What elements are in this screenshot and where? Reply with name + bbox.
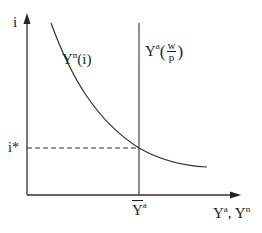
- equilibrium-rate-label: i*: [8, 141, 19, 155]
- x-axis-label: Ya, Yn: [213, 206, 250, 221]
- x-axis-label-ya: Y: [213, 205, 224, 221]
- demand-curve-label: Yn(i): [62, 52, 92, 67]
- equilibrium-output-label-name: Y: [132, 200, 143, 218]
- supply-line-label-close-paren: ): [177, 42, 183, 61]
- demand-curve-label-arg: (i): [77, 51, 91, 67]
- equilibrium-output-label: Ya: [132, 202, 147, 218]
- x-axis-label-yn: Y: [235, 205, 246, 221]
- supply-line-label-sup: a: [156, 41, 160, 51]
- demand-curve-label-name: Y: [62, 51, 73, 67]
- supply-line-label-fraction: wp: [167, 40, 177, 63]
- supply-line-label-open-paren: (: [160, 42, 166, 61]
- x-axis-label-yn-sup: n: [246, 204, 251, 214]
- supply-line-label-name: Y: [145, 43, 156, 59]
- demand-curve-yn: [51, 23, 207, 167]
- x-axis-arrow-icon: [230, 192, 241, 199]
- equilibrium-output-label-sup: a: [143, 200, 147, 210]
- x-axis-label-sep: ,: [228, 205, 235, 221]
- diagram-canvas: [0, 0, 262, 233]
- fraction-denominator: p: [167, 52, 177, 63]
- x-axis-label-ya-sup: a: [224, 204, 228, 214]
- demand-curve-label-sup: n: [73, 50, 78, 60]
- y-axis-arrow-icon: [24, 13, 31, 24]
- supply-line-label: Ya(wp): [145, 40, 183, 63]
- y-axis-label: i: [13, 15, 17, 30]
